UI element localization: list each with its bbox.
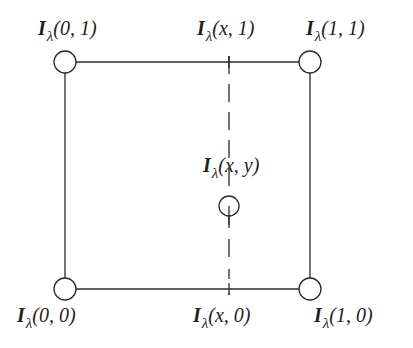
label-bottom-right: Iλ(1, 0) [314,305,373,325]
lambda-subscript: λ [206,28,213,44]
lambda-subscript: λ [323,315,330,331]
node-top-left [54,51,76,73]
intensity-symbol: I [38,17,46,39]
label-top-mid: Iλ(x, 1) [197,18,255,38]
coord-args: (0, 0) [32,304,75,326]
label-center: Iλ(x, y) [203,155,259,175]
label-bottom-mid: Iλ(x, 0) [193,305,251,325]
intensity-symbol: I [314,304,322,326]
lambda-subscript: λ [212,165,219,181]
node-bottom-left [54,278,76,300]
intensity-symbol: I [193,304,201,326]
intensity-symbol: I [306,17,314,39]
coord-args: (x, y) [218,154,259,176]
lambda-subscript: λ [26,315,33,331]
lambda-subscript: λ [47,28,54,44]
intensity-symbol: I [197,17,205,39]
label-bottom-left: Iλ(0, 0) [17,305,76,325]
node-bottom-right [299,278,321,300]
label-top-left: Iλ(0, 1) [38,18,97,38]
lambda-subscript: λ [202,315,209,331]
intensity-symbol: I [17,304,25,326]
coord-args: (1, 0) [329,304,372,326]
label-top-right: Iλ(1, 1) [306,18,365,38]
lambda-subscript: λ [315,28,322,44]
intensity-symbol: I [203,154,211,176]
coord-args: (0, 1) [53,17,96,39]
node-top-right [299,51,321,73]
coord-args: (x, 1) [212,17,254,39]
coord-args: (1, 1) [321,17,364,39]
coord-args: (x, 0) [208,304,250,326]
